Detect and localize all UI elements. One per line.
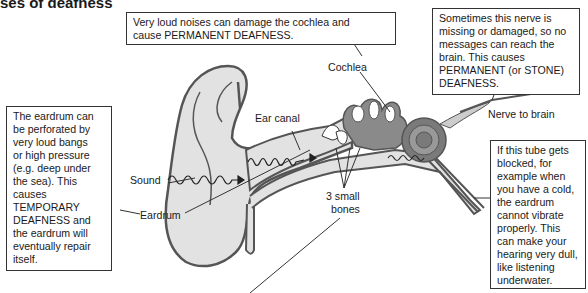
callout-line: causes xyxy=(13,188,106,201)
callout-line: very loud bangs xyxy=(13,136,106,149)
cochlea-damage-callout: Very loud noises can damage the cochlea … xyxy=(126,12,396,45)
callout-line: underwater. xyxy=(497,274,580,287)
callout-line: be perforated by xyxy=(13,123,106,136)
nerve-callout: Sometimes this nerve is missing or damag… xyxy=(432,8,580,95)
callout-line: Sometimes this nerve is xyxy=(439,12,574,25)
callout-line: eventually repair xyxy=(13,240,106,253)
label-ear-canal: Ear canal xyxy=(255,112,300,124)
label-small-bones-2: bones xyxy=(331,203,360,215)
callout-line: can make your xyxy=(497,235,580,248)
callout-line: brain. This causes xyxy=(439,51,574,64)
callout-line: blocked, for xyxy=(497,157,580,170)
label-sound: Sound xyxy=(130,174,161,186)
eardrum-callout: The eardrum can be perforated by very lo… xyxy=(6,106,112,271)
callout-line: TEMPORARY xyxy=(13,201,106,214)
callout-line: Very loud noises can damage the cochlea … xyxy=(133,16,390,29)
callout-line: itself. xyxy=(13,253,106,266)
callout-line: PERMANENT (or STONE) xyxy=(439,64,574,77)
callout-line: cause PERMANENT DEAFNESS. xyxy=(133,29,390,42)
callout-line: cannot vibrate xyxy=(497,209,580,222)
label-cochlea: Cochlea xyxy=(328,61,367,73)
callout-line: or high pressure xyxy=(13,149,106,162)
callout-line: The eardrum can xyxy=(13,110,106,123)
callout-line: you have a cold, xyxy=(497,183,580,196)
callout-line: like listening xyxy=(497,261,580,274)
callout-line: If this tube gets xyxy=(497,144,580,157)
tube-callout: If this tube gets blocked, for example w… xyxy=(490,140,586,289)
auditory-nerve xyxy=(440,102,490,128)
callout-line: (e.g. deep under xyxy=(13,162,106,175)
callout-line: missing or damaged, so no xyxy=(439,25,574,38)
callout-line: the sea). This xyxy=(13,175,106,188)
callout-line: DEAFNESS and xyxy=(13,214,106,227)
callout-line: example when xyxy=(497,170,580,183)
callout-line: DEAFNESS. xyxy=(439,77,574,90)
label-small-bones-1: 3 small xyxy=(326,190,360,202)
callout-line: hearing very dull, xyxy=(497,248,580,261)
callout-line: the eardrum xyxy=(497,196,580,209)
label-nerve-to-brain: Nerve to brain xyxy=(488,108,555,120)
callout-line: properly. This xyxy=(497,222,580,235)
callout-line: messages can reach the xyxy=(439,38,574,51)
label-eardrum: Eardrum xyxy=(140,209,181,221)
callout-line: the eardrum will xyxy=(13,227,106,240)
